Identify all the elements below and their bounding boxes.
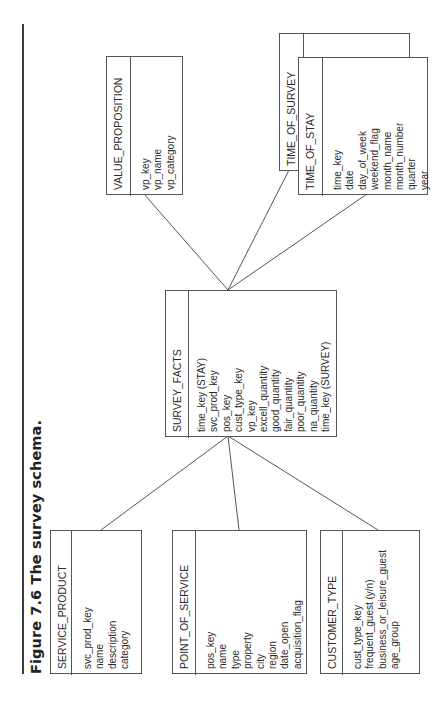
entity-title: SURVEY_FACTS — [166, 291, 189, 438]
field: date_open — [279, 531, 291, 669]
field: description — [107, 531, 119, 669]
field: quarter — [406, 58, 418, 190]
link-survey-facts-value-proposition — [144, 194, 228, 290]
field: vp_category — [165, 57, 177, 190]
field: type — [230, 531, 242, 669]
field: cust_type_key — [233, 291, 245, 432]
field: city — [255, 531, 267, 669]
entity-title: VALUE_PROPOSITION — [107, 57, 131, 196]
link-survey-facts-service-product — [101, 436, 228, 530]
entity-fields: svc_prod_key name description category — [72, 531, 143, 675]
field: day_of_week — [357, 58, 369, 190]
field: weekend_flag — [369, 58, 381, 190]
field: time_key (SURVEY) — [320, 291, 332, 432]
field: year — [419, 58, 431, 190]
link-survey-facts-customer-type — [228, 436, 378, 530]
field: frequent_guest (y/n) — [364, 531, 376, 669]
field: vp_key — [246, 291, 258, 432]
entity-fields: cust_type_key frequent_guest (y/n) busin… — [343, 531, 421, 675]
field: poor_quantity — [295, 291, 307, 432]
entity-service-product: SERVICE_PRODUCT svc_prod_key name descri… — [50, 530, 142, 674]
field: category — [119, 531, 131, 669]
field: pos_key — [205, 531, 217, 669]
field: time_key — [332, 58, 344, 190]
entity-point-of-service: POINT_OF_SERVICE pos_key name type prope… — [172, 530, 307, 674]
field: date — [344, 58, 356, 190]
link-survey-facts-time-of-stay — [228, 194, 367, 290]
field: business_or_leisure_guest — [377, 531, 389, 669]
field: good_quantity — [270, 291, 282, 432]
field: vp_key — [140, 57, 152, 190]
entity-time-of-stay: TIME_OF_STAY time_key date day_of_week w… — [298, 57, 428, 195]
field: month_name — [382, 58, 394, 190]
field: month_number — [394, 58, 406, 190]
entity-fields: vp_key vp_name vp_category — [131, 57, 184, 196]
field: vp_name — [152, 57, 164, 190]
entity-title: TIME_OF_STAY — [299, 58, 323, 196]
field: svc_prod_key — [82, 531, 94, 669]
entity-customer-type: CUSTOMER_TYPE cust_type_key frequent_gue… — [320, 530, 420, 674]
field: cust_type_key — [352, 531, 364, 669]
entity-fields: time_key date day_of_week weekend_flag m… — [323, 58, 429, 196]
field: name — [217, 531, 229, 669]
link-survey-facts-time-of-survey — [228, 170, 289, 290]
field: property — [242, 531, 254, 669]
entity-fields: pos_key name type property city region d… — [196, 531, 308, 675]
entity-title: CUSTOMER_TYPE — [321, 531, 343, 675]
link-survey-facts-point-of-service — [228, 436, 239, 530]
entity-title: POINT_OF_SERVICE — [173, 531, 196, 675]
entity-survey-facts: SURVEY_FACTS time_key (STAY) svc_prod_ke… — [165, 290, 337, 437]
field: na_quantity — [308, 291, 320, 432]
field: region — [267, 531, 279, 669]
field: name — [94, 531, 106, 669]
entity-value-proposition: VALUE_PROPOSITION vp_key vp_name vp_cate… — [106, 56, 183, 195]
entity-title: SERVICE_PRODUCT — [51, 531, 72, 675]
entity-fields: time_key (STAY) svc_prod_key pos_key cus… — [189, 291, 338, 438]
field: age_group — [389, 531, 401, 669]
field: fair_quantity — [283, 291, 295, 432]
field: time_key (STAY) — [196, 291, 208, 432]
field: pos_key — [221, 291, 233, 432]
field: svc_prod_key — [208, 291, 220, 432]
field: acquisition_flag — [292, 531, 304, 669]
field: excell_quantity — [258, 291, 270, 432]
